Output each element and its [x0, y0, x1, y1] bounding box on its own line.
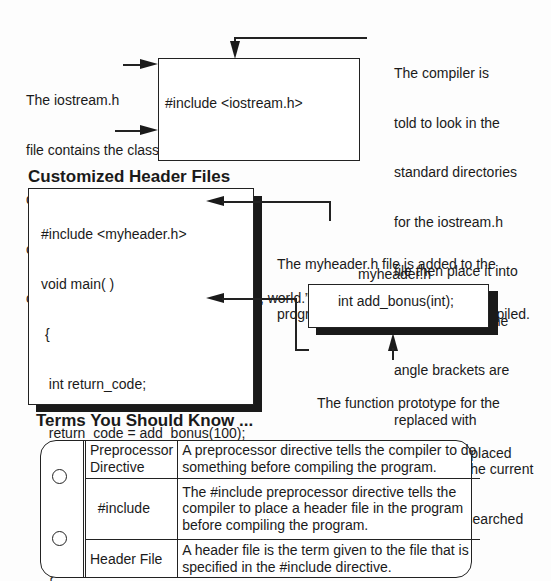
connector-line: [222, 201, 330, 203]
code-line-blank: [165, 143, 318, 159]
code-line: {: [41, 326, 245, 343]
connector-line: [392, 348, 394, 360]
annotation-line: The function prototype for the: [317, 395, 512, 412]
connector-line: [295, 349, 309, 351]
terms-table: Preprocessor Directive A preprocessor di…: [83, 440, 480, 578]
term-definition: The #include preprocessor directive tell…: [178, 478, 481, 539]
term-name: #include: [85, 478, 178, 539]
term-name: Header File: [85, 539, 178, 578]
annotation-line: file contains the class: [26, 142, 159, 159]
term-row: Header File A header file is the term gi…: [85, 539, 481, 578]
header-file-title: myheader.h: [358, 266, 431, 283]
term-definition: A header file is the term given to the f…: [178, 539, 481, 578]
binder-ring-icon: [52, 469, 67, 484]
term-row: Preprocessor Directive A preprocessor di…: [85, 440, 481, 478]
section-heading: Customized Header Files: [28, 167, 230, 187]
annotation-line: standard directories: [394, 164, 533, 181]
connector-line: [329, 201, 331, 221]
binder-ring-icon: [52, 531, 67, 546]
arrow-right-icon: [140, 59, 158, 69]
arrow-right-icon: [140, 125, 158, 135]
code-line: void main( ): [41, 276, 245, 293]
term-name: Preprocessor Directive: [85, 440, 178, 478]
connector-line: [115, 130, 143, 132]
arrow-down-icon: [230, 41, 240, 59]
connector-line: [222, 298, 296, 300]
annotation-line: The iostream.h: [26, 92, 159, 109]
header-file-content: int add_bonus(int);: [338, 293, 454, 310]
terms-heading: Terms You Should Know ...: [36, 411, 253, 431]
code-line: int return_code;: [41, 376, 245, 393]
code-line: #include <myheader.h>: [41, 226, 245, 243]
connector-line: [295, 298, 297, 350]
term-row: #include The #include preprocessor direc…: [85, 478, 481, 539]
annotation-line: The compiler is: [394, 65, 533, 82]
term-definition: A preprocessor directive tells the compi…: [178, 440, 481, 478]
connector-line: [234, 37, 367, 39]
code-line: #include <iostream.h>: [165, 95, 318, 111]
annotation-line: told to look in the: [394, 115, 533, 132]
